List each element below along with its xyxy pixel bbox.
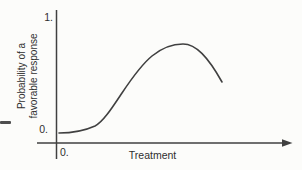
y-axis-tick-one: 1.	[38, 12, 53, 23]
y-axis-title-line1: Probability of a	[16, 32, 28, 120]
x-axis-tick-zero: 0.	[60, 147, 69, 158]
y-axis-title-line2: favorable response	[28, 32, 40, 120]
scan-artifact-mark	[0, 121, 11, 124]
treatment-response-figure: Probability of a favorable response 1. 0…	[0, 0, 302, 170]
x-axis-title: Treatment	[110, 149, 195, 161]
y-axis-title: Probability of a favorable response	[16, 32, 40, 120]
plot-canvas	[0, 0, 302, 170]
x-axis-arrowhead-icon	[282, 139, 293, 147]
y-axis-tick-zero: 0.	[33, 124, 48, 135]
response-curve	[59, 44, 222, 133]
